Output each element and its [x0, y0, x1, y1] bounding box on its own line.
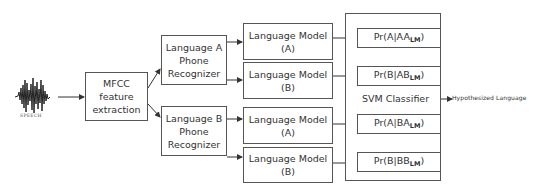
- mfcc-line-2: feature: [99, 90, 133, 103]
- svm-classifier-label: SVM Classifier: [362, 93, 429, 104]
- phone-a-line-2: Phone: [179, 54, 208, 67]
- score-suffix: ): [420, 69, 424, 80]
- mfcc-line-1: MFCC: [103, 77, 130, 90]
- mfcc-feature-extraction-box: MFCC feature extraction: [85, 72, 148, 121]
- hypothesized-language-label: Hypothesized Language: [452, 94, 526, 101]
- score-text: Pr(A|BALM): [374, 116, 424, 133]
- score-suffix: ): [421, 31, 425, 42]
- lm3-line-1: Language Model: [249, 113, 327, 126]
- score-sub: LM: [410, 36, 421, 44]
- speech-label: SPEECH: [20, 113, 42, 118]
- lm2-line-1: Language Model: [249, 68, 327, 81]
- lm2-line-2: (B): [281, 81, 295, 94]
- score-prefix: Pr(A|BA: [374, 117, 410, 128]
- score-sub: LM: [410, 74, 421, 82]
- language-model-b-box-1: Language Model (B): [243, 62, 333, 99]
- score-box-pr-b-ab: Pr(B|ABLM): [357, 66, 441, 86]
- language-a-phone-recognizer-box: Language A Phone Recognizer: [161, 35, 227, 85]
- lm4-line-1: Language Model: [249, 152, 327, 165]
- language-model-b-box-2: Language Model (B): [243, 147, 333, 183]
- score-text: Pr(A|AALM): [374, 30, 424, 47]
- phone-a-line-3: Recognizer: [168, 67, 220, 80]
- score-text: Pr(B|BBLM): [374, 154, 424, 171]
- score-suffix: ): [420, 117, 424, 128]
- score-prefix: Pr(B|AB: [374, 69, 410, 80]
- score-prefix: Pr(B|BB: [374, 155, 410, 166]
- score-box-pr-b-bb: Pr(B|BBLM): [357, 152, 441, 172]
- lm1-line-2: (A): [281, 42, 295, 55]
- phone-b-line-1: Language B: [166, 112, 222, 125]
- speech-waveform-icon: [15, 78, 50, 113]
- score-suffix: ): [420, 155, 424, 166]
- lm3-line-2: (A): [281, 126, 295, 139]
- language-id-diagram: SPEECH MFCC feature extraction Language …: [0, 0, 543, 189]
- phone-b-line-3: Recognizer: [168, 138, 220, 151]
- score-sub: LM: [410, 160, 421, 168]
- score-text: Pr(B|ABLM): [374, 68, 424, 85]
- score-sub: LM: [410, 122, 421, 130]
- lm1-line-1: Language Model: [249, 29, 327, 42]
- score-box-pr-a-ba: Pr(A|BALM): [357, 114, 441, 134]
- phone-a-line-1: Language A: [166, 41, 222, 54]
- language-b-phone-recognizer-box: Language B Phone Recognizer: [161, 106, 227, 156]
- mfcc-line-3: extraction: [92, 103, 140, 116]
- phone-b-line-2: Phone: [179, 125, 208, 138]
- language-model-a-box-2: Language Model (A): [243, 107, 333, 144]
- language-model-a-box-1: Language Model (A): [243, 23, 333, 60]
- score-prefix: Pr(A|AA: [374, 31, 410, 42]
- score-box-pr-a-aa: Pr(A|AALM): [357, 28, 441, 48]
- lm4-line-2: (B): [281, 165, 295, 178]
